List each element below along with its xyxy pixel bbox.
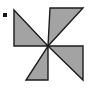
bullet-dot — [3, 13, 7, 17]
pinwheel-figure: Pinwheel shape made of four shaded right… — [0, 0, 93, 91]
figure-canvas: Pinwheel shape made of four shaded right… — [0, 0, 93, 91]
